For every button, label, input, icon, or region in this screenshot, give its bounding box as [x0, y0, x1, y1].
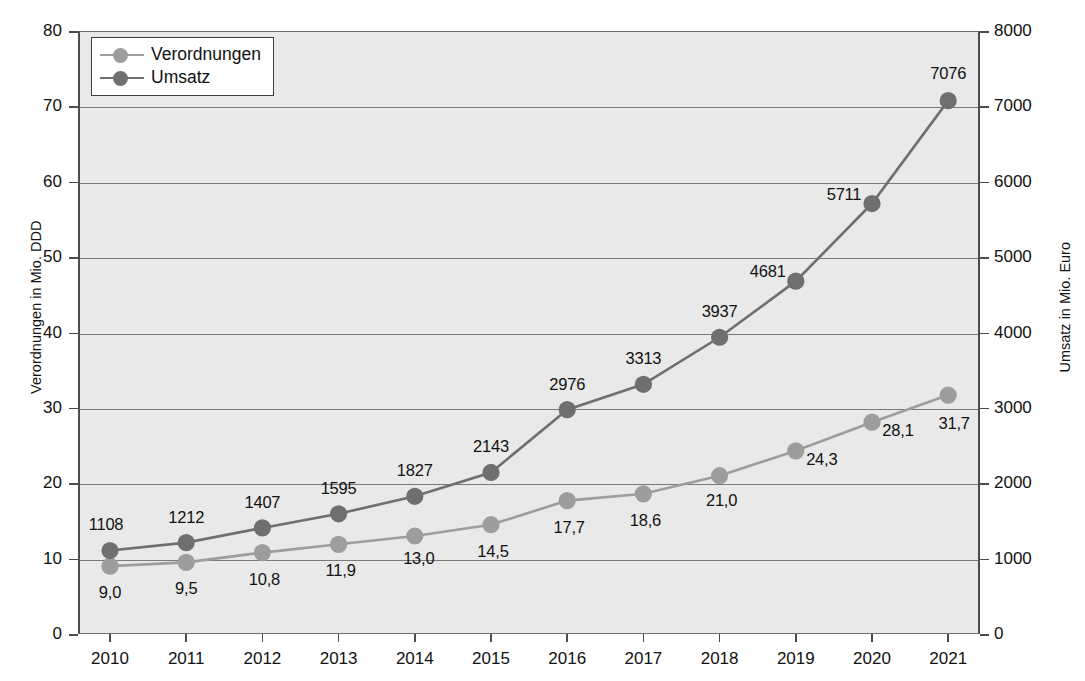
chart-container: 01020304050607080 0100020003000400050006… — [0, 0, 1085, 681]
legend-item-umsatz: Umsatz — [100, 66, 261, 89]
data-point-label: 18,6 — [605, 512, 685, 529]
data-point-label: 1212 — [146, 509, 226, 526]
data-point-label: 1108 — [66, 516, 146, 533]
y-axis-left-tick-label: 80 — [14, 22, 62, 39]
legend-label-umsatz: Umsatz — [151, 69, 210, 87]
data-point-label: 11,9 — [301, 562, 381, 579]
x-axis-tick-mark — [109, 634, 111, 642]
y-axis-right-tick-label: 0 — [994, 625, 1003, 642]
y-axis-right-tick-label: 1000 — [994, 550, 1032, 567]
legend-label-verordnungen: Verordnungen — [151, 46, 261, 64]
y-axis-right-tick-label: 5000 — [994, 248, 1032, 265]
data-point-label: 31,7 — [914, 415, 994, 432]
x-axis-tick-mark — [566, 634, 568, 642]
y-axis-right-tick-label: 8000 — [994, 22, 1032, 39]
legend-marker-verordnungen-icon — [100, 46, 144, 64]
gridline — [80, 183, 978, 184]
data-point-label: 1827 — [375, 462, 455, 479]
gridline — [80, 484, 978, 485]
y-axis-left-tick-mark — [69, 634, 78, 636]
legend-item-verordnungen: Verordnungen — [100, 43, 261, 66]
data-point-label: 1595 — [299, 480, 379, 497]
legend-marker-umsatz-icon — [100, 69, 144, 87]
data-point-label: 21,0 — [682, 492, 762, 509]
gridline — [80, 409, 978, 410]
y-axis-right-tick-label: 4000 — [994, 324, 1032, 341]
y-axis-left-tick-mark — [69, 483, 78, 485]
x-axis-tick-mark — [795, 634, 797, 642]
x-axis-tick-mark — [414, 634, 416, 642]
x-axis-tick-mark — [262, 634, 264, 642]
data-point-label: 9,5 — [146, 580, 226, 597]
y-axis-right-tick-mark — [980, 257, 989, 259]
chart-legend: Verordnungen Umsatz — [91, 37, 274, 96]
data-point-label: 24,3 — [782, 451, 862, 468]
y-axis-right-tick-mark — [980, 634, 989, 636]
x-axis-tick-mark — [338, 634, 340, 642]
y-axis-right-tick-mark — [980, 408, 989, 410]
x-axis-tick-label: 2021 — [903, 650, 993, 667]
data-point-label: 14,5 — [453, 543, 533, 560]
data-point-label: 1407 — [222, 494, 302, 511]
y-axis-right-tick-label: 7000 — [994, 97, 1032, 114]
x-axis-tick-mark — [947, 634, 949, 642]
x-axis-tick-mark — [871, 634, 873, 642]
y-axis-left-tick-label: 70 — [14, 97, 62, 114]
x-axis-tick-mark — [719, 634, 721, 642]
y-axis-right-tick-label: 6000 — [994, 173, 1032, 190]
data-point-label: 9,0 — [70, 584, 150, 601]
y-axis-right-tick-mark — [980, 31, 989, 33]
y-axis-right-tick-mark — [980, 483, 989, 485]
gridline — [80, 258, 978, 259]
data-point-label: 10,8 — [224, 571, 304, 588]
data-point-label: 7076 — [908, 65, 988, 82]
data-point-label: 17,7 — [529, 519, 609, 536]
y-axis-right-tick-mark — [980, 333, 989, 335]
y-axis-left-tick-label: 20 — [14, 474, 62, 491]
y-axis-left-tick-label: 0 — [14, 625, 62, 642]
y-axis-left-tick-label: 10 — [14, 550, 62, 567]
x-axis-tick-mark — [185, 634, 187, 642]
y-axis-right-tick-mark — [980, 182, 989, 184]
y-axis-left-tick-mark — [69, 333, 78, 335]
gridline — [80, 107, 978, 108]
y-axis-left-tick-mark — [69, 559, 78, 561]
y-axis-right-title: Umsatz in Mio. Euro — [1058, 187, 1073, 427]
y-axis-left-tick-mark — [69, 31, 78, 33]
y-axis-left-tick-mark — [69, 408, 78, 410]
y-axis-left-tick-mark — [69, 257, 78, 259]
y-axis-right-tick-label: 3000 — [994, 399, 1032, 416]
y-axis-right-tick-label: 2000 — [994, 474, 1032, 491]
y-axis-left-tick-mark — [69, 182, 78, 184]
data-point-label: 13,0 — [379, 550, 459, 567]
data-point-label: 5711 — [804, 186, 884, 203]
gridline — [80, 334, 978, 335]
y-axis-left-title: Verordnungen in Mio. DDD — [29, 187, 44, 427]
y-axis-right-tick-mark — [980, 106, 989, 108]
data-point-label: 3313 — [603, 350, 683, 367]
x-axis-tick-mark — [490, 634, 492, 642]
data-point-label: 3937 — [680, 303, 760, 320]
y-axis-right-tick-mark — [980, 559, 989, 561]
gridline — [80, 560, 978, 561]
x-axis-tick-mark — [643, 634, 645, 642]
data-point-label: 2143 — [451, 438, 531, 455]
data-point-label: 2976 — [527, 376, 607, 393]
y-axis-left-tick-mark — [69, 106, 78, 108]
data-point-label: 4681 — [728, 263, 808, 280]
